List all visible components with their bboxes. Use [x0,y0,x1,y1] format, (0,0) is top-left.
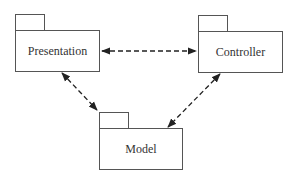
package-presentation[interactable]: Presentation [16,15,100,72]
package-tab [199,16,228,32]
dependency-controller-model [168,74,220,127]
dependency-presentation-model [62,73,97,110]
package-tab [16,15,45,31]
package-label: Presentation [28,44,87,58]
package-model[interactable]: Model [100,113,183,170]
package-label: Model [125,142,157,156]
package-diagram: Presentation Controller Model [0,0,296,179]
package-controller[interactable]: Controller [199,16,283,73]
package-tab [100,113,129,129]
package-label: Controller [216,45,265,59]
